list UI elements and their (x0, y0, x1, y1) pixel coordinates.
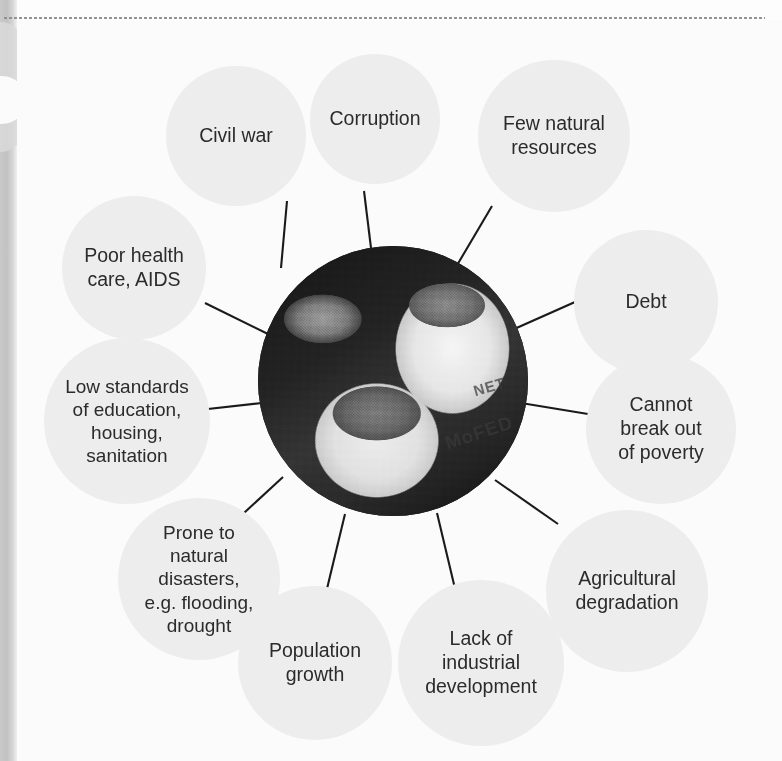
bubble-few-resources[interactable]: Few natural resources (478, 60, 630, 212)
bubble-label-low-standards: Low standards of education, housing, san… (65, 375, 189, 468)
central-photo-grain-sacks: NET MoFED (258, 246, 528, 516)
bubble-agricultural-degradation[interactable]: Agricultural degradation (546, 510, 708, 672)
bubble-label-debt: Debt (625, 290, 666, 314)
bubble-label-lack-industrial: Lack of industrial development (425, 627, 537, 698)
bubble-label-corruption: Corruption (329, 107, 420, 131)
bubble-label-civil-war: Civil war (199, 124, 273, 148)
bubble-label-cannot-break-out: Cannot break out of poverty (618, 393, 704, 464)
bubble-low-standards[interactable]: Low standards of education, housing, san… (44, 338, 210, 504)
bubble-poor-health[interactable]: Poor health care, AIDS (62, 196, 206, 340)
bubble-label-natural-disasters: Prone to natural disasters, e.g. floodin… (145, 521, 254, 637)
bubble-label-poor-health: Poor health care, AIDS (84, 244, 184, 292)
bubble-civil-war[interactable]: Civil war (166, 66, 306, 206)
dotted-divider-rule (3, 16, 765, 20)
bubble-corruption[interactable]: Corruption (310, 54, 440, 184)
bubble-label-few-resources: Few natural resources (503, 112, 605, 160)
bubble-lack-industrial[interactable]: Lack of industrial development (398, 580, 564, 746)
bubble-label-agricultural-degradation: Agricultural degradation (575, 567, 678, 615)
bubble-natural-disasters[interactable]: Prone to natural disasters, e.g. floodin… (118, 498, 280, 660)
bubble-debt[interactable]: Debt (574, 230, 718, 374)
bubble-cannot-break-out[interactable]: Cannot break out of poverty (586, 354, 736, 504)
diagram-page: Civil war Corruption Few natural resourc… (0, 0, 782, 761)
bubble-label-population-growth: Population growth (269, 639, 361, 687)
